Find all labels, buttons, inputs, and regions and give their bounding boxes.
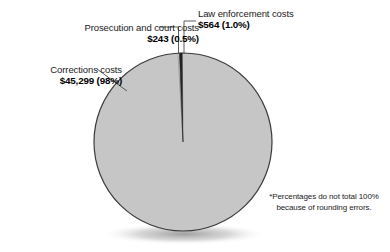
chart-footnote-line-1: *Percentages do not total 100%: [258, 192, 390, 203]
callout-corrections: Corrections costs $45,299 (98%): [10, 64, 122, 87]
callout-prosecution: Prosecution and court costs $243 (0.5%): [44, 22, 199, 45]
callout-law-enforcement: Law enforcement costs $564 (1.0%): [198, 8, 294, 31]
chart-footnote-line-2: because of rounding errors.: [258, 203, 390, 214]
callout-corrections-name: Corrections costs: [10, 64, 122, 75]
callout-law-enforcement-value: $564 (1.0%): [198, 19, 294, 31]
callout-law-enforcement-name: Law enforcement costs: [198, 8, 294, 19]
callout-corrections-value: $45,299 (98%): [10, 75, 122, 87]
chart-footnote: *Percentages do not total 100% because o…: [258, 192, 390, 214]
callout-prosecution-value: $243 (0.5%): [44, 33, 199, 45]
pie-chart-figure: Law enforcement costs $564 (1.0%) Prosec…: [0, 0, 390, 252]
callout-prosecution-name: Prosecution and court costs: [44, 22, 199, 33]
